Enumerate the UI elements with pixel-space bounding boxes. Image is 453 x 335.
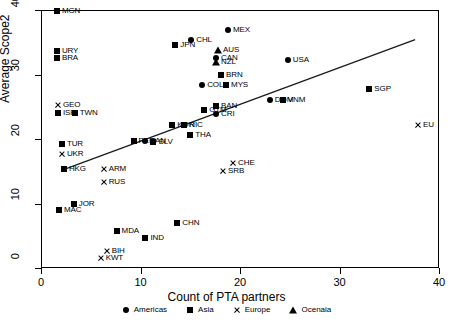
square-marker-icon <box>172 42 178 48</box>
y-tick <box>35 10 41 11</box>
legend-marker <box>233 306 241 314</box>
square-marker-icon <box>187 132 193 138</box>
legend-item-europe[interactable]: Europe <box>233 305 271 314</box>
x-tick <box>340 268 341 274</box>
circle-marker-icon <box>267 97 273 103</box>
x-tick-label: 10 <box>121 276 161 288</box>
data-point-label: VNM <box>288 95 305 104</box>
square-marker-icon <box>169 122 175 128</box>
x-axis-title: Count of PTA partners <box>0 290 453 304</box>
square-marker-icon <box>71 201 77 207</box>
data-point-label: JOR <box>79 199 95 208</box>
circle-marker-icon <box>188 37 194 43</box>
square-marker-icon <box>61 166 67 172</box>
data-point-label: KWT <box>106 253 123 262</box>
data-point-label: GTM <box>209 105 226 114</box>
circle-marker-icon <box>142 138 148 144</box>
square-marker-icon <box>72 110 78 116</box>
legend-marker <box>186 306 194 314</box>
data-point-label: CHN <box>182 218 199 227</box>
y-tick-label: 30 <box>15 59 16 90</box>
data-point-label: EU <box>423 120 434 129</box>
legend-label: Europe <box>245 305 271 314</box>
legend-item-ocenaia[interactable]: Ocenaia <box>289 305 331 314</box>
y-tick <box>35 75 41 76</box>
data-point-label: NIC <box>189 120 202 129</box>
data-point-label: SRB <box>228 166 244 175</box>
y-tick-label: 20 <box>15 124 16 155</box>
legend-item-americas[interactable]: Americas <box>122 305 167 314</box>
x-tick-label: 40 <box>419 276 453 288</box>
square-marker-icon <box>131 138 137 144</box>
square-marker-icon <box>366 86 372 92</box>
x-tick <box>41 268 42 274</box>
circle-marker-icon <box>123 307 129 313</box>
plot-area <box>41 10 439 268</box>
data-point-label: COL <box>207 80 223 89</box>
x-tick-label: 30 <box>320 276 360 288</box>
data-point-label: MEX <box>233 25 250 34</box>
cross-marker-icon <box>100 166 107 173</box>
legend: AmericasAsiaEuropeOcenaia <box>0 305 453 314</box>
square-marker-icon <box>55 110 61 116</box>
legend-marker <box>122 306 130 314</box>
legend-marker <box>289 306 297 314</box>
x-tick <box>439 268 440 274</box>
triangle-marker-icon <box>212 59 220 66</box>
circle-marker-icon <box>285 57 291 63</box>
square-marker-icon <box>56 207 62 213</box>
cross-marker-icon <box>415 121 422 128</box>
data-point-label: NZL <box>221 57 236 66</box>
square-marker-icon <box>174 220 180 226</box>
square-marker-icon <box>181 122 187 128</box>
x-tick <box>240 268 241 274</box>
cross-marker-icon <box>58 150 65 157</box>
square-marker-icon <box>114 228 120 234</box>
cross-marker-icon <box>97 255 104 262</box>
cross-marker-icon <box>54 102 61 109</box>
data-point-label: CHL <box>196 35 212 44</box>
legend-label: Asia <box>198 305 214 314</box>
legend-item-asia[interactable]: Asia <box>186 305 214 314</box>
y-tick-label: 10 <box>15 188 16 219</box>
square-marker-icon <box>54 8 60 14</box>
cross-marker-icon <box>100 179 107 186</box>
data-point-label: MYS <box>231 80 248 89</box>
cross-marker-icon <box>220 167 227 174</box>
y-tick <box>35 204 41 205</box>
square-marker-icon <box>150 139 156 145</box>
data-point-label: RUS <box>109 177 126 186</box>
data-point-label: SLV <box>158 137 172 146</box>
cross-marker-icon <box>233 306 240 313</box>
square-marker-icon <box>201 107 207 113</box>
y-tick-label: 0 <box>15 253 16 284</box>
data-point-label: SGP <box>374 84 391 93</box>
x-tick <box>141 268 142 274</box>
data-point-label: TUR <box>67 139 83 148</box>
data-point-label: BRN <box>226 70 243 79</box>
data-point-label: USA <box>293 55 309 64</box>
data-point-label: MGN <box>62 6 80 15</box>
triangle-marker-icon <box>289 306 297 313</box>
legend-label: Americas <box>134 305 167 314</box>
scatter-plot-figure: Average Scope2 010203040010203040 MGNURY… <box>0 0 453 335</box>
data-point-label: HKG <box>69 164 86 173</box>
data-point-label: MDA <box>122 226 139 235</box>
circle-marker-icon <box>225 27 231 33</box>
data-point-label: IND <box>150 233 163 242</box>
x-tick-label: 20 <box>220 276 260 288</box>
square-marker-icon <box>280 97 286 103</box>
data-point-label: BRA <box>62 53 78 62</box>
square-marker-icon <box>223 82 229 88</box>
data-point-label: TWN <box>80 108 98 117</box>
y-tick-label: 40 <box>15 0 16 26</box>
square-marker-icon <box>218 72 224 78</box>
square-marker-icon <box>59 141 65 147</box>
circle-marker-icon <box>199 82 205 88</box>
legend-label: Ocenaia <box>301 305 331 314</box>
square-marker-icon <box>187 307 193 313</box>
square-marker-icon <box>54 48 60 54</box>
square-marker-icon <box>142 235 148 241</box>
data-point-label: UKR <box>67 149 84 158</box>
x-tick-label: 0 <box>21 276 61 288</box>
